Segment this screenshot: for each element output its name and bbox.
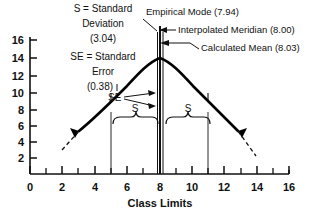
y-axis-tick-labels: 2 4 6 8 10 12 14 16	[12, 34, 25, 164]
x-tick-10: 10	[186, 181, 198, 193]
y-tick-4: 4	[18, 136, 25, 148]
se-label: SE	[108, 92, 122, 103]
x-tick-2: 2	[59, 181, 65, 193]
y-tick-8: 8	[18, 104, 24, 116]
curve-arrowheads	[70, 128, 247, 138]
se-arrowheads	[148, 90, 156, 109]
legend-line-5: Error	[92, 66, 115, 77]
legend-line-6: (0.38)	[87, 81, 113, 92]
legend-line-4: SE = Standard	[70, 51, 135, 62]
s-label-right: S	[185, 103, 192, 114]
x-tick-0: 0	[27, 181, 33, 193]
y-tick-14: 14	[12, 52, 25, 64]
chart-canvas: 2 4 6 8 10 12 14 16	[0, 0, 310, 211]
callout-mean-leader	[165, 43, 199, 49]
x-tick-4: 4	[92, 181, 99, 193]
chart-figure: 2 4 6 8 10 12 14 16	[0, 0, 310, 211]
callout-mean-arrowhead	[160, 40, 169, 46]
x-tick-12: 12	[218, 181, 230, 193]
annotation-interpolated-meridian: Interpolated Meridian (8.00)	[178, 24, 295, 35]
s-label-left: S	[132, 103, 139, 114]
legend-line-2: Deviation	[82, 18, 124, 29]
legend-line-1: S = Standard	[74, 3, 133, 14]
legend-block: S = Standard Deviation (3.04) SE = Stand…	[70, 3, 135, 92]
y-tick-2: 2	[18, 152, 24, 164]
x-axis-title: Class Limits	[128, 197, 193, 209]
x-tick-14: 14	[251, 181, 264, 193]
y-tick-16: 16	[12, 34, 24, 46]
y-tick-10: 10	[12, 87, 24, 99]
x-tick-6: 6	[124, 181, 130, 193]
y-tick-6: 6	[18, 120, 24, 132]
x-tick-8: 8	[157, 181, 163, 193]
y-tick-12: 12	[12, 70, 24, 82]
annotation-empirical-mode: Empirical Mode (7.94)	[146, 6, 239, 17]
x-tick-16: 16	[283, 181, 295, 193]
callout-mode-leader	[143, 19, 157, 31]
x-axis-tick-labels: 0 2 4 6 8 10 12 14 16	[27, 181, 295, 193]
legend-line-3: (3.04)	[90, 33, 116, 44]
y-axis-ticks	[30, 40, 37, 158]
central-markers	[158, 26, 164, 174]
annotation-calculated-mean: Calculated Mean (8.03)	[201, 42, 300, 53]
